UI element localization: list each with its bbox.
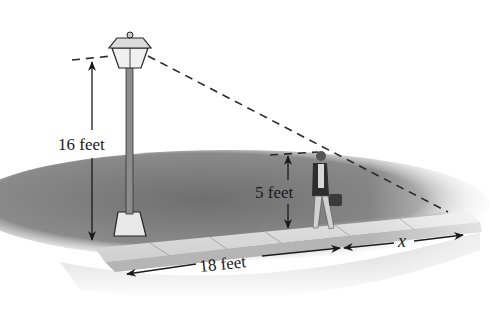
lamp-height-label: 16 feet bbox=[58, 135, 105, 154]
person-height-label: 5 feet bbox=[255, 183, 294, 202]
diagram-canvas: 16 feet 5 feet 18 feet x bbox=[0, 0, 494, 315]
illustration: 16 feet 5 feet 18 feet x bbox=[0, 0, 494, 315]
shadow-length-label: x bbox=[397, 231, 406, 251]
